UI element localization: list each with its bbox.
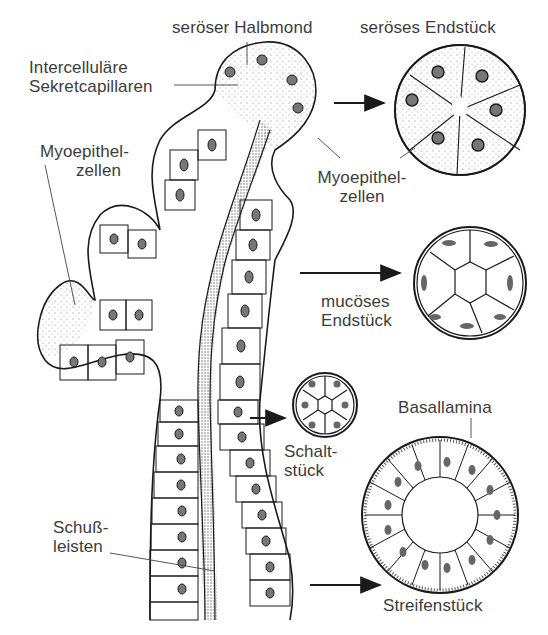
label-text: zellen xyxy=(29,161,129,180)
label-basallamina: Basallamina xyxy=(398,398,492,417)
label-text: Basallamina xyxy=(398,398,492,417)
label-text: mucöses xyxy=(321,292,392,311)
left-acinus xyxy=(38,281,95,360)
label-streifenstueck: Streifenstück xyxy=(383,596,483,615)
label-text: zellen xyxy=(310,187,414,206)
label-intercellulaere-sekretcapillaren: Intercelluläre Sekretcapillaren xyxy=(29,58,153,96)
label-mucoeses-endstueck: mucöses Endstück xyxy=(321,292,392,330)
label-text: Myoepithel- xyxy=(29,142,129,161)
label-text: Streifenstück xyxy=(383,596,483,615)
gland-diagram: seröser Halbmond seröses Endstück Interc… xyxy=(0,0,548,635)
label-text: seröser Halbmond xyxy=(172,18,313,37)
label-text: Schuß- xyxy=(53,518,108,537)
label-text: Intercelluläre xyxy=(29,58,153,77)
intercalated-duct-section xyxy=(293,373,357,437)
label-text: leisten xyxy=(53,537,108,556)
mucous-endpiece-section xyxy=(414,227,526,339)
label-text: Schalt- xyxy=(284,442,338,461)
duct-lumen xyxy=(197,122,272,620)
label-text: Endstück xyxy=(321,311,392,330)
label-myoepithelzellen-right: Myoepithel- zellen xyxy=(310,168,414,206)
label-seroeses-endstueck: seröses Endstück xyxy=(360,18,496,37)
label-text: Sekretcapillaren xyxy=(29,77,153,96)
label-seroeser-halbmond: seröser Halbmond xyxy=(172,18,313,37)
label-text: seröses Endstück xyxy=(360,18,496,37)
label-schaltstueck: Schalt- stück xyxy=(284,442,338,480)
label-myoepithelzellen-left: Myoepithel- zellen xyxy=(29,142,129,180)
serous-endpiece-section xyxy=(395,45,525,175)
label-text: stück xyxy=(284,461,338,480)
label-schussleisten: Schuß- leisten xyxy=(53,518,108,556)
label-text: Myoepithel- xyxy=(310,168,414,187)
striated-duct-section xyxy=(362,437,518,593)
